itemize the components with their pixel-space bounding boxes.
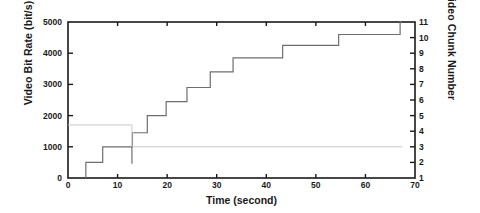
x-ticklabel: 10 [103,181,133,190]
y-ticklabel-right: 2 [419,158,435,167]
series-video-bit-rate-step [86,22,402,178]
y-ticklabel-right: 5 [419,112,435,121]
x-ticklabel: 50 [301,181,331,190]
chart-figure: 010002000300040005000 1234567891011 0102… [0,0,480,213]
x-ticklabel: 40 [251,181,281,190]
y-ticklabel-right: 11 [419,18,435,27]
y-ticklabel-right: 10 [419,34,435,43]
x-ticklabel: 60 [350,181,380,190]
y-ticklabel-right: 8 [419,65,435,74]
y-ticklabel-right: 6 [419,96,435,105]
x-ticklabel: 30 [202,181,232,190]
y-ticklabel-right: 7 [419,80,435,89]
series-buffer-level-line [68,125,402,147]
data-series-layer [68,22,402,178]
x-axis-title: Time (second) [68,194,415,206]
x-ticklabel: 20 [152,181,182,190]
tick-marks [68,22,415,178]
y-ticklabel-left: 1000 [18,143,62,152]
y-ticklabel-right: 3 [419,143,435,152]
x-ticklabel: 70 [400,181,430,190]
y-axis-right-title: Video Chunk Number [446,0,458,121]
y-ticklabel-right: 9 [419,49,435,58]
y-ticklabel-right: 4 [419,127,435,136]
x-ticklabel: 0 [53,181,83,190]
plot-frame [68,22,415,178]
y-axis-left-title: Video Bit Rate (bit/s) [22,0,34,128]
